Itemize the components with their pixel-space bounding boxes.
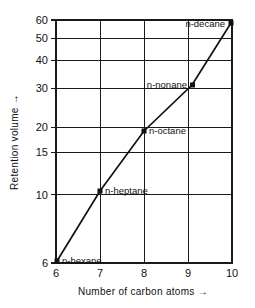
data-point-octane xyxy=(142,129,147,134)
x-tick-label-8: 8 xyxy=(141,267,147,279)
data-point-heptane xyxy=(98,189,103,194)
y-tick-label-50: 50 xyxy=(36,32,48,44)
y-tick-label-15: 15 xyxy=(36,146,48,158)
y-tick-label-20: 20 xyxy=(36,121,48,133)
y-tick-label-60: 60 xyxy=(36,14,48,26)
label-n-hexane: n-hexane xyxy=(62,255,102,266)
label-n-octane: n-octane xyxy=(149,125,186,136)
data-point-decane xyxy=(229,21,234,26)
x-tick-label-10: 10 xyxy=(226,267,238,279)
y-axis-title: Retention volume → xyxy=(9,94,20,190)
retention-volume-chart: 60 50 40 30 20 15 10 6 6 7 8 9 10 xyxy=(0,0,255,308)
data-point-hexane xyxy=(55,259,60,264)
x-tick-label-7: 7 xyxy=(97,267,103,279)
label-n-decane: n-decane xyxy=(185,18,225,29)
label-n-heptane: n-heptane xyxy=(105,185,148,196)
y-tick-label-6: 6 xyxy=(42,257,48,269)
y-tick-label-30: 30 xyxy=(36,82,48,94)
x-tick-label-9: 9 xyxy=(185,267,191,279)
label-n-nonane: n-nonane xyxy=(147,79,187,90)
figure-container: 60 50 40 30 20 15 10 6 6 7 8 9 10 xyxy=(0,0,255,308)
x-axis-title: Number of carbon atoms → xyxy=(78,286,208,297)
data-point-nonane xyxy=(190,83,195,88)
x-tick-label-6: 6 xyxy=(53,267,59,279)
y-tick-label-10: 10 xyxy=(36,189,48,201)
y-tick-label-40: 40 xyxy=(36,54,48,66)
